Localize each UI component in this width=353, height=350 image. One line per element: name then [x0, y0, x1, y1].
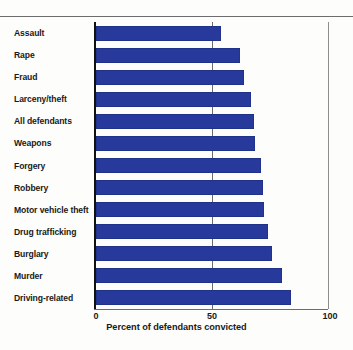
top-divider-rule — [0, 16, 353, 17]
bar-row — [96, 265, 328, 287]
bar-assault — [96, 26, 221, 41]
category-label: Burglary — [0, 249, 89, 259]
bar-rape — [96, 48, 240, 63]
bar-weapons — [96, 136, 255, 151]
category-label: Rape — [0, 50, 89, 60]
category-label-column: AssaultRapeFraudLarceny/theftAll defenda… — [0, 22, 92, 309]
bar-burglary — [96, 246, 272, 261]
category-label: Weapons — [0, 138, 89, 148]
bar-forgery — [96, 158, 261, 173]
bar-motor-vehicle-theft — [96, 202, 264, 217]
bar-driving-related — [96, 290, 291, 305]
category-label: All defendants — [0, 116, 89, 126]
bar-row — [96, 110, 328, 132]
x-axis-line — [94, 309, 328, 310]
bar-row — [96, 221, 328, 243]
bar-chart-figure: AssaultRapeFraudLarceny/theftAll defenda… — [0, 0, 353, 350]
x-axis-title: Percent of defendants convicted — [0, 322, 353, 332]
category-label: Drug trafficking — [0, 227, 89, 237]
bar-row — [96, 243, 328, 265]
category-label: Driving-related — [0, 293, 89, 303]
x-tick-0: 0 — [93, 311, 98, 321]
category-label: Larceny/theft — [0, 94, 89, 104]
bar-series — [96, 22, 328, 309]
category-label: Robbery — [0, 183, 89, 193]
bar-drug-trafficking — [96, 224, 268, 239]
bar-fraud — [96, 70, 244, 85]
plot-area — [96, 22, 328, 309]
bar-murder — [96, 268, 282, 283]
x-tick-100: 100 — [322, 311, 337, 321]
bar-row — [96, 66, 328, 88]
bar-larceny-theft — [96, 92, 251, 107]
bar-row — [96, 44, 328, 66]
category-label: Forgery — [0, 161, 89, 171]
bar-all-defendants — [96, 114, 254, 129]
bar-row — [96, 22, 328, 44]
bar-row — [96, 88, 328, 110]
bar-robbery — [96, 180, 263, 195]
category-label: Fraud — [0, 72, 89, 82]
bar-row — [96, 199, 328, 221]
category-label: Assault — [0, 28, 89, 38]
category-label: Motor vehicle theft — [0, 205, 89, 215]
bar-row — [96, 287, 328, 309]
gridline-100 — [328, 22, 329, 309]
category-label: Murder — [0, 271, 89, 281]
bar-row — [96, 154, 328, 176]
x-tick-50: 50 — [207, 311, 217, 321]
bar-row — [96, 132, 328, 154]
bar-row — [96, 176, 328, 198]
